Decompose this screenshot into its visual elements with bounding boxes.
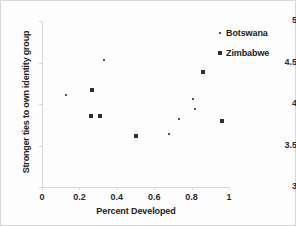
- y-tick-mark: [39, 21, 42, 22]
- y-tick-mark: [39, 104, 42, 105]
- y-tick-label: 4: [263, 99, 296, 108]
- x-tick-mark: [192, 187, 193, 190]
- y-tick-label: 3.5: [263, 141, 296, 150]
- x-tick-label: 0.8: [177, 192, 207, 202]
- data-point-zimbabwe: [220, 119, 224, 123]
- x-tick-label: 0.4: [102, 192, 132, 202]
- legend-label: Zimbabwe: [226, 48, 269, 58]
- x-tick-label: 0.2: [64, 192, 94, 202]
- y-tick-mark: [39, 146, 42, 147]
- legend-item-botswana[interactable]: Botswana: [214, 23, 292, 43]
- data-point-botswana: [103, 59, 105, 61]
- legend-item-zimbabwe[interactable]: Zimbabwe: [214, 43, 292, 63]
- x-tick-mark: [42, 187, 43, 190]
- x-tick-mark: [79, 187, 80, 190]
- data-point-botswana: [178, 118, 180, 120]
- x-tick-label: 1: [214, 192, 244, 202]
- x-tick-label: 0: [27, 192, 57, 202]
- data-point-zimbabwe: [134, 134, 138, 138]
- data-point-zimbabwe: [201, 70, 205, 74]
- data-point-botswana: [65, 94, 67, 96]
- legend-swatch: [218, 51, 222, 55]
- legend-marker-icon: [214, 32, 226, 34]
- plot-area: 33.544.55 00.20.40.60.81 Percent Develop…: [1, 1, 296, 226]
- legend-swatch: [219, 32, 221, 34]
- data-point-botswana: [168, 133, 170, 135]
- data-point-botswana: [194, 108, 196, 110]
- legend-marker-icon: [214, 51, 226, 55]
- y-axis-title: Stronger ties to own identity group: [21, 17, 31, 187]
- chart-legend: BotswanaZimbabwe: [214, 23, 292, 63]
- x-tick-label: 0.6: [139, 192, 169, 202]
- data-point-zimbabwe: [98, 114, 102, 118]
- scatter-chart-figure: 33.544.55 00.20.40.60.81 Percent Develop…: [0, 0, 296, 226]
- data-point-zimbabwe: [90, 88, 94, 92]
- y-tick-mark: [39, 63, 42, 64]
- x-axis-title: Percent Developed: [42, 206, 230, 216]
- data-point-zimbabwe: [89, 114, 93, 118]
- data-point-botswana: [192, 98, 194, 100]
- x-tick-mark: [117, 187, 118, 190]
- x-tick-mark: [154, 187, 155, 190]
- y-tick-label: 3: [263, 182, 296, 191]
- y-axis-line: [42, 21, 43, 188]
- legend-label: Botswana: [226, 28, 268, 38]
- x-tick-mark: [229, 187, 230, 190]
- x-axis-line: [42, 187, 230, 188]
